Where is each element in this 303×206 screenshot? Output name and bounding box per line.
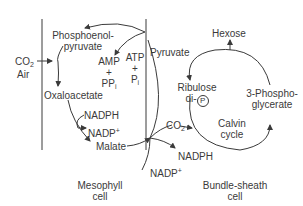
pyruvate-label: Pyruvate [150,47,189,58]
atp-pi-label: ATP + Pi [124,52,146,88]
oxaloacetate-label: Oxaloacetate [44,90,103,101]
amp-text: AMP [96,56,122,67]
co2-input-label: CO2 [15,56,34,70]
hexose-label: Hexose [212,28,246,39]
amp-ppi-label: AMP + PPi [96,56,122,92]
pga-line2: glycerate [242,99,302,110]
atp-text: ATP [124,52,146,63]
rubp-line1: Ribulose [175,82,219,93]
phosphate-circle-icon: P [197,95,209,107]
ppi-text: PPi [96,78,122,92]
nadph-mesophyll-label: NADPH [84,110,119,121]
c4-pathway-diagram: CO2 Air Phosphoenol- pyruvate Oxaloaceta… [0,0,303,206]
pga-line1: 3-Phospho- [242,88,302,99]
ribulose-diphosphate-label: Ribulose di-P [175,82,219,107]
pep-line2: pyruvate [48,41,118,52]
mesophyll-cell-label: Mesophyll cell [70,180,130,202]
nadph-bundle-sheath-label: NADPH [178,151,213,162]
co2-subscript: 2 [30,61,34,68]
plus-sign: + [124,63,146,74]
nadp-mesophyll-label: NADP+ [88,125,120,139]
pep-line1: Phosphoenol- [48,30,118,41]
pi-text: Pi [124,74,146,88]
calvin-cycle-label: Calvin cycle [212,118,252,140]
co2-text: CO [15,56,30,67]
plus-sign: + [96,67,122,78]
3-phosphoglycerate-label: 3-Phospho- glycerate [242,88,302,110]
co2-bundle-sheath-label: CO2 [166,120,185,134]
air-label: Air [17,69,29,80]
malate-label: Malate [96,141,126,152]
rubp-line2: di-P [175,93,219,107]
phosphoenolpyruvate-label: Phosphoenol- pyruvate [48,30,118,52]
nadp-bundle-sheath-label: NADP+ [150,165,182,179]
bundle-sheath-cell-label: Bundle-sheath cell [195,180,275,202]
